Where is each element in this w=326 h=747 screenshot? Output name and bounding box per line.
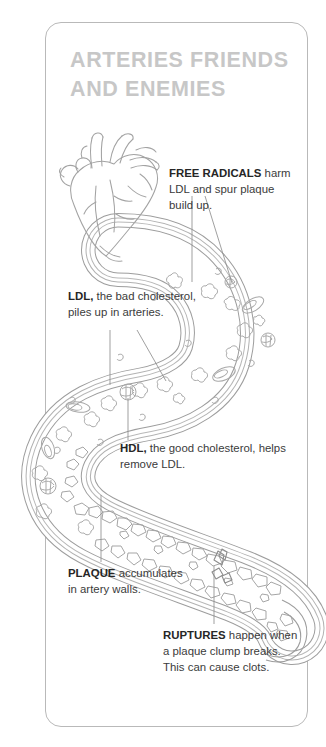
callout-term-plaque: PLAQUE — [68, 567, 115, 579]
callout-term-ruptures: RUPTURES — [163, 629, 226, 641]
callout-hdl: HDL, the good cholesterol, helps remove … — [120, 440, 300, 472]
callout-ruptures: RUPTURES happen when a plaque clump brea… — [163, 627, 298, 676]
infographic-card — [45, 22, 308, 727]
callout-plaque: PLAQUE accumulates in artery walls. — [68, 565, 188, 597]
callout-term-hdl: HDL, — [120, 442, 147, 454]
callout-free-radicals: FREE RADICALS harm LDL and spur plaque b… — [169, 165, 301, 214]
callout-ldl: LDL, the bad cholesterol, piles up in ar… — [68, 288, 196, 320]
callout-term-free-radicals: FREE RADICALS — [169, 167, 261, 179]
page-title: ARTERIES FRIENDS AND ENEMIES — [70, 46, 290, 103]
infographic-root: ARTERIES FRIENDS AND ENEMIES FREE RADICA… — [0, 0, 326, 747]
callout-term-ldl: LDL, — [68, 290, 93, 302]
